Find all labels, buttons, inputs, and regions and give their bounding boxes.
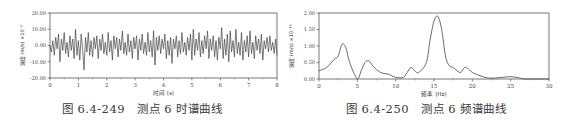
y-tick-label: 10.00 [32, 26, 46, 32]
caption-number: 图 6.4-250 [346, 100, 409, 116]
x-tick-label: 3 [133, 82, 137, 88]
x-axis-label: 频率 (Hz) [421, 90, 446, 98]
y-axis-label: 速度 (m/s) ×10⁻¹² [288, 24, 295, 67]
y-axis-label: 速度 (m/s) ×10⁻⁶ [19, 25, 26, 66]
y-tick-label: 20.00 [32, 10, 46, 16]
series-line [319, 16, 549, 79]
x-tick-label: 5 [190, 82, 194, 88]
x-tick-label: 0 [317, 83, 321, 89]
x-tick-label: 15 [431, 83, 438, 89]
x-tick-label: 8 [275, 82, 279, 88]
spectrum-figure: 0510152025302.001.501.000.500.00频率 (Hz)速… [284, 0, 568, 133]
x-tick-label: 1 [77, 82, 81, 88]
y-tick-label: -10.00 [30, 59, 46, 65]
y-tick-label: 2.00 [304, 10, 315, 16]
time-history-chart: 01234567820.0010.000.00-10.00-20.00时间 (s… [0, 0, 284, 100]
x-tick-label: 7 [247, 82, 251, 88]
x-tick-label: 6 [219, 82, 223, 88]
x-tick-label: 0 [48, 82, 52, 88]
caption-text: 测点 6 时谱曲线 [137, 100, 222, 116]
y-tick-label: 0.00 [35, 42, 46, 48]
x-tick-label: 2 [105, 82, 109, 88]
x-tick-label: 30 [546, 83, 553, 89]
time-history-caption: 图 6.4-249测点 6 时谱曲线 [0, 100, 284, 116]
spectrum-caption: 图 6.4-250测点 6 频谱曲线 [284, 100, 568, 116]
x-tick-label: 20 [469, 83, 476, 89]
caption-text: 测点 6 频谱曲线 [421, 100, 506, 116]
time-history-figure: 01234567820.0010.000.00-10.00-20.00时间 (s… [0, 0, 284, 133]
y-tick-label: -20.00 [30, 75, 46, 81]
x-tick-label: 4 [162, 82, 166, 88]
series-line [50, 28, 277, 70]
x-tick-label: 5 [356, 83, 360, 89]
spectrum-chart: 0510152025302.001.501.000.500.00频率 (Hz)速… [284, 0, 568, 100]
y-tick-label: 1.50 [304, 26, 315, 32]
x-tick-label: 10 [392, 83, 399, 89]
y-tick-label: 0.50 [304, 59, 315, 65]
x-tick-label: 25 [507, 83, 514, 89]
plot-frame [319, 13, 549, 79]
y-tick-label: 0.00 [304, 76, 315, 82]
x-axis-label: 时间 (s) [153, 89, 174, 97]
y-tick-label: 1.00 [304, 43, 315, 49]
caption-number: 图 6.4-249 [62, 100, 125, 116]
